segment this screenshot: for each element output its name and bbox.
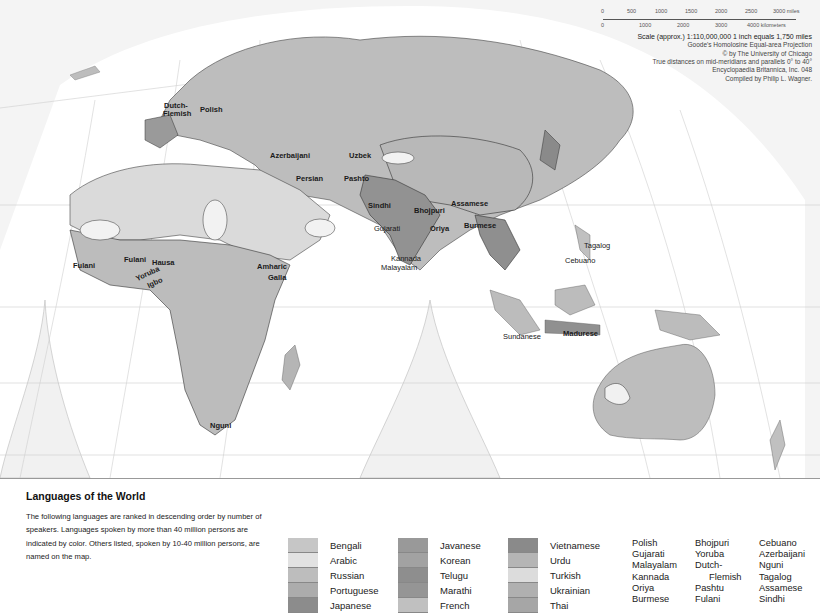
color-swatch	[288, 538, 318, 553]
region-label: Oriya	[430, 225, 449, 233]
legend-item: Arabic	[288, 553, 379, 568]
region-label: Assamese	[451, 200, 488, 208]
region-label: Nguni	[210, 422, 231, 430]
language-name: Sindhi	[759, 594, 805, 605]
region-label: Galla	[268, 274, 286, 282]
legend-description: The following languages are ranked in de…	[26, 510, 276, 563]
language-name: Azerbaijani	[759, 549, 805, 560]
world-language-map: Dutch- Flemish Polish Azerbaijani Uzbek …	[0, 0, 820, 478]
legend-item: French	[398, 598, 481, 613]
language-name: Tagalog	[759, 572, 805, 583]
language-name: Nguni	[759, 560, 805, 571]
legend-title: Languages of the World	[26, 490, 145, 502]
color-swatch	[288, 553, 318, 568]
legend-label: Marathi	[440, 585, 472, 596]
color-swatch	[398, 568, 428, 583]
legend-named-column-2: Bhojpuri Yoruba Dutch- Flemish Pashtu Fu…	[695, 538, 742, 605]
legend-item: Portuguese	[288, 583, 379, 598]
region-label: Sindhi	[368, 202, 391, 210]
region-label: Gujarati	[374, 225, 400, 233]
color-swatch	[398, 583, 428, 598]
desert-sahara-east	[203, 200, 227, 240]
publisher-text: Encyclopaedia Britannica, Inc. 048	[597, 66, 812, 74]
language-name: Polish	[632, 538, 677, 549]
legend-label: French	[440, 600, 470, 611]
compiler-text: Compiled by Philip L. Wagner.	[597, 75, 812, 83]
desert-sahara-west	[80, 220, 120, 240]
scale-line	[603, 19, 796, 20]
region-label: Azerbaijani	[270, 152, 310, 160]
copyright-text: © by The University of Chicago	[597, 50, 812, 58]
color-swatch	[288, 568, 318, 583]
region-label: Tagalog	[584, 242, 610, 250]
legend-named-column-1: Polish Gujarati Malayalam Kannada Oriya …	[632, 538, 677, 605]
legend-item: Turkish	[508, 568, 600, 583]
legend-item: Ukrainian	[508, 583, 600, 598]
legend-item: Urdu	[508, 553, 600, 568]
language-name: Assamese	[759, 583, 805, 594]
legend-named-column-3: Cebuano Azerbaijani Nguni Tagalog Assame…	[759, 538, 805, 605]
region-label: Sundanese	[503, 333, 541, 341]
tick-label: 2500	[745, 8, 757, 15]
legend-color-column-2: Javanese Korean Telugu Marathi French	[398, 538, 481, 613]
legend-label: Urdu	[550, 555, 571, 566]
region-label: Bhojpuri	[414, 207, 445, 215]
language-name: Malayalam	[632, 560, 677, 571]
tick-label: 2000	[715, 8, 727, 15]
tick-label: 0	[601, 8, 604, 15]
color-swatch	[508, 598, 538, 613]
region-label: Burmese	[464, 222, 496, 230]
region-label: Kannada	[391, 255, 421, 263]
language-name: Yoruba	[695, 549, 742, 560]
region-label: Fulani	[124, 256, 146, 264]
region-label: Persian	[296, 175, 323, 183]
color-swatch	[288, 583, 318, 598]
language-name: Gujarati	[632, 549, 677, 560]
legend-label: Bengali	[330, 540, 362, 551]
legend-item: Russian	[288, 568, 379, 583]
tick-label: 2000	[677, 22, 689, 29]
legend-label: Portuguese	[330, 585, 379, 596]
language-name: Burmese	[632, 594, 677, 605]
region-label: Flemish	[163, 110, 191, 118]
color-swatch	[288, 598, 318, 613]
legend-label: Thai	[550, 600, 568, 611]
language-name: Bhojpuri	[695, 538, 742, 549]
legend-label: Arabic	[330, 555, 357, 566]
tick-label: 3000	[715, 22, 727, 29]
legend-label: Korean	[440, 555, 471, 566]
language-name: Kannada	[632, 572, 677, 583]
language-name: Oriya	[632, 583, 677, 594]
region-label: Cebuano	[565, 257, 595, 265]
region-label: Uzbek	[349, 152, 371, 160]
distances-text: True distances on mid-meridians and para…	[597, 58, 812, 66]
color-swatch	[398, 538, 428, 553]
legend-label: Javanese	[440, 540, 481, 551]
region-label: Amharic	[257, 263, 287, 271]
language-name: Dutch-	[695, 560, 742, 571]
color-swatch	[508, 538, 538, 553]
region-label: Pashto	[344, 175, 369, 183]
scale-bar: 0 500 1000 1500 2000 2500 3000 miles 0 1…	[597, 8, 812, 30]
language-name: Pashtu	[695, 583, 742, 594]
color-swatch	[398, 553, 428, 568]
region-label: Polish	[200, 106, 223, 114]
tick-label: 0	[601, 22, 604, 29]
color-swatch	[398, 598, 428, 613]
projection-text: Goode's Homolosine Equal-area Projection	[597, 41, 812, 49]
tick-label: 1500	[685, 8, 697, 15]
legend-label: Russian	[330, 570, 364, 581]
legend-item: Marathi	[398, 583, 481, 598]
legend-item: Korean	[398, 553, 481, 568]
desert-arabia	[305, 219, 335, 237]
language-name: Cebuano	[759, 538, 805, 549]
color-swatch	[508, 568, 538, 583]
legend-label: Turkish	[550, 570, 581, 581]
tick-label: 3000 miles	[773, 8, 800, 15]
tick-label: 500	[627, 8, 636, 15]
region-label: Madurese	[563, 330, 598, 338]
language-name: Fulani	[695, 594, 742, 605]
legend-item: Vietnamese	[508, 538, 600, 553]
legend-item: Japanese	[288, 598, 379, 613]
legend-item: Thai	[508, 598, 600, 613]
